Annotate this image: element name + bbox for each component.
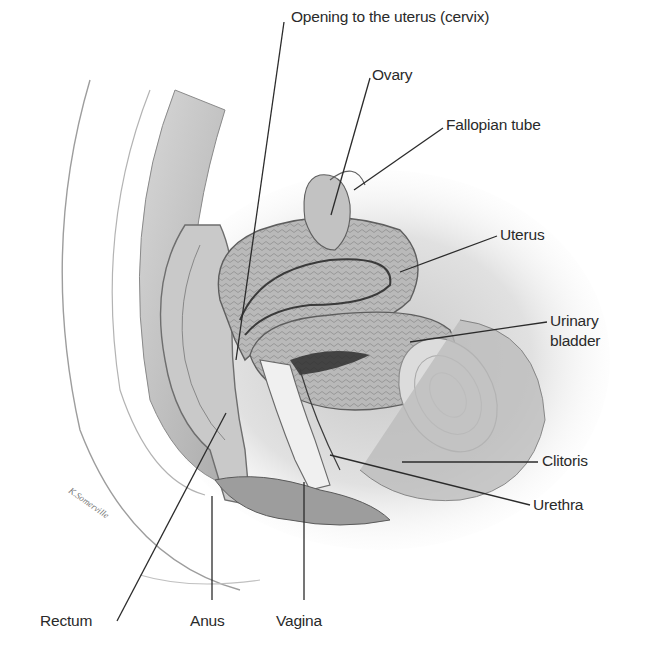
label-clitoris: Clitoris	[542, 452, 588, 470]
label-ovary: Ovary	[372, 66, 412, 84]
label-vagina: Vagina	[276, 612, 322, 630]
label-anus: Anus	[190, 612, 225, 630]
label-uterus: Uterus	[500, 226, 544, 244]
anatomy-diagram: K.Somerville Opening to the uterus (cerv…	[0, 0, 646, 654]
label-urethra: Urethra	[533, 496, 583, 514]
label-fallopian-tube: Fallopian tube	[446, 116, 541, 134]
label-rectum: Rectum	[40, 612, 92, 630]
label-cervix: Opening to the uterus (cervix)	[291, 8, 489, 26]
artist-signature: K.Somerville	[66, 485, 111, 521]
label-urinary-bladder-line2: bladder	[550, 332, 600, 350]
label-urinary-bladder-line1: Urinary	[550, 312, 599, 330]
